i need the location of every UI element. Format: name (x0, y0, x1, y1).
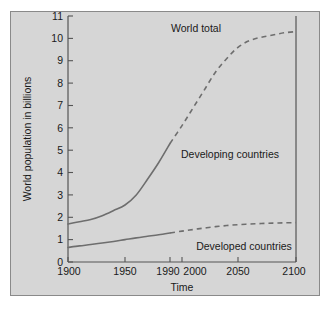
series-annotations: World total Developing countries Develop… (171, 22, 292, 252)
x-tick-label: 1990 (156, 265, 180, 277)
x-tick-marks (68, 257, 296, 262)
y-tick-label: 6 (57, 122, 63, 134)
y-tick-label: 11 (52, 10, 63, 22)
x-tick-label: 2000 (183, 265, 207, 277)
y-tick-label: 10 (51, 32, 63, 44)
developed-countries-dashed (170, 223, 296, 233)
x-tick-labels: 1900 1950 1990 2000 2050 2100 (57, 265, 306, 277)
y-tick-label: 3 (57, 189, 63, 201)
annotation-developed-countries: Developed countries (196, 240, 292, 252)
y-tick-label: 7 (57, 99, 63, 111)
world-total-solid (68, 143, 170, 224)
y-tick-label: 1 (57, 233, 63, 245)
annotation-developing-countries: Developing countries (181, 148, 279, 160)
y-tick-label: 9 (57, 54, 63, 66)
y-tick-label: 5 (57, 144, 63, 156)
y-tick-marks (68, 16, 73, 262)
x-tick-label: 1950 (113, 265, 137, 277)
y-tick-labels: 0 1 2 3 4 5 6 7 8 9 10 11 (51, 10, 63, 268)
x-tick-label: 2100 (282, 265, 306, 277)
x-tick-label: 1900 (57, 265, 81, 277)
y-tick-label: 2 (57, 211, 63, 223)
x-tick-label: 2050 (226, 265, 250, 277)
annotation-world-total: World total (171, 22, 221, 34)
figure-container: 0 1 2 3 4 5 6 7 8 9 10 11 1900 1950 1990 (0, 0, 333, 316)
developed-countries-solid (68, 233, 170, 248)
x-axis-title: Time (171, 281, 194, 293)
world-total-dashed (170, 32, 296, 144)
y-tick-label: 4 (57, 166, 63, 178)
population-line-chart: 0 1 2 3 4 5 6 7 8 9 10 11 1900 1950 1990 (0, 0, 333, 316)
axes-group (68, 16, 296, 262)
y-axis-title: World population in billions (21, 77, 33, 202)
y-tick-label: 8 (57, 77, 63, 89)
